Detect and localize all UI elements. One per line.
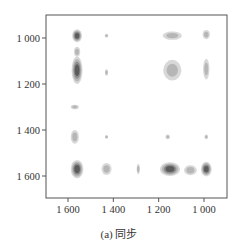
y-tick-label: 1 000 bbox=[16, 33, 40, 44]
contour-peak bbox=[71, 130, 79, 144]
contour-peak bbox=[184, 165, 197, 175]
contour-peak bbox=[72, 29, 82, 42]
x-tick-label: 1 000 bbox=[192, 204, 216, 215]
contour-peak bbox=[72, 56, 83, 84]
contour-peak bbox=[102, 163, 112, 175]
x-tick-label: 1 600 bbox=[56, 204, 80, 215]
contour-peak bbox=[160, 162, 180, 176]
x-axis: 1 6001 4001 2001 000 bbox=[56, 198, 216, 215]
figure-caption: (a) 同步 bbox=[0, 225, 238, 241]
contour-peak bbox=[74, 47, 80, 57]
contour-peak bbox=[165, 135, 170, 140]
contour-peak bbox=[71, 105, 79, 110]
contour-peak bbox=[105, 34, 109, 38]
contour-peak bbox=[71, 160, 84, 178]
contour-peak bbox=[203, 30, 210, 39]
contour-peak bbox=[137, 164, 140, 174]
x-tick-label: 1 200 bbox=[147, 204, 171, 215]
contour-peak bbox=[163, 32, 182, 40]
y-tick-label: 1 600 bbox=[16, 171, 40, 182]
y-axis: 1 0001 2001 4001 600 bbox=[16, 33, 46, 182]
synchronous-correlation-map: 1 6001 4001 2001 000 1 0001 2001 4001 60… bbox=[0, 0, 238, 242]
contour-peak bbox=[204, 135, 208, 140]
contour-peak bbox=[105, 135, 108, 139]
y-tick-label: 1 400 bbox=[16, 125, 40, 136]
contour-peak bbox=[203, 59, 209, 80]
contour-peaks bbox=[71, 29, 212, 178]
y-tick-label: 1 200 bbox=[16, 79, 40, 90]
contour-peak bbox=[201, 162, 212, 177]
contour-peak bbox=[163, 60, 181, 81]
x-tick-label: 1 400 bbox=[102, 204, 126, 215]
contour-peak bbox=[105, 69, 108, 75]
